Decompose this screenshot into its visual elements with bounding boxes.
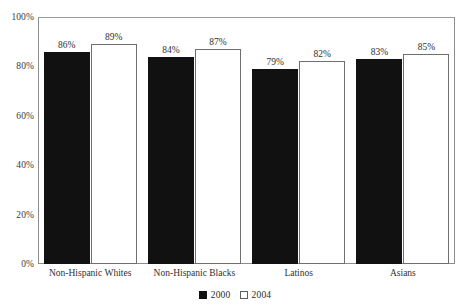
bar-value-label: 79%	[266, 57, 283, 68]
bar-group: 79%82%	[247, 17, 351, 264]
bar-value-label: 84%	[162, 45, 179, 56]
bar-2004-latinos: 82%	[299, 61, 345, 264]
bar-value-label: 85%	[418, 42, 435, 53]
bar-value-label: 83%	[371, 47, 388, 58]
y-axis: 0%20%40%60%80%100%	[0, 0, 34, 308]
y-axis-tick-label: 60%	[0, 111, 34, 121]
bar-value-label: 89%	[105, 32, 122, 43]
legend-swatch-icon	[240, 291, 248, 299]
x-axis-label-latinos: Latinos	[284, 267, 313, 280]
bar-group: 83%85%	[351, 17, 455, 264]
bar-2004-non-hispanic-blacks: 87%	[195, 49, 241, 264]
x-axis-category-labels: Non-Hispanic WhitesNon-Hispanic BlacksLa…	[38, 267, 455, 283]
y-axis-tick-label: 0%	[0, 259, 34, 269]
x-axis-label-asians: Asians	[390, 267, 416, 280]
bar-value-label: 87%	[209, 37, 226, 48]
bar-2000-non-hispanic-whites: 86%	[44, 52, 90, 264]
legend-label: 2000	[211, 289, 231, 301]
legend-label: 2004	[252, 289, 272, 301]
bar-2000-non-hispanic-blacks: 84%	[148, 57, 194, 264]
bar-group: 86%89%	[38, 17, 142, 264]
bar-2000-latinos: 79%	[252, 69, 298, 264]
x-axis-label-non-hispanic-blacks: Non-Hispanic Blacks	[154, 267, 236, 280]
x-axis-label-non-hispanic-whites: Non-Hispanic Whites	[49, 267, 131, 280]
bar-2000-asians: 83%	[356, 59, 402, 264]
y-axis-tick-label: 40%	[0, 160, 34, 170]
y-axis-tick-label: 100%	[0, 12, 34, 22]
bar-value-label: 86%	[58, 40, 75, 51]
bar-value-label: 82%	[313, 49, 330, 60]
y-axis-tick-label: 80%	[0, 61, 34, 71]
bar-2004-non-hispanic-whites: 89%	[91, 44, 137, 264]
legend-item-2004: 2004	[240, 289, 272, 301]
chart-legend: 20002004	[0, 289, 470, 301]
bar-group: 84%87%	[142, 17, 246, 264]
bar-2004-asians: 85%	[403, 54, 449, 264]
legend-item-2000: 2000	[199, 289, 231, 301]
y-axis-tick-label: 20%	[0, 210, 34, 220]
bars-layer: 86%89%84%87%79%82%83%85%	[38, 17, 455, 264]
bar-chart: 0%20%40%60%80%100% 86%89%84%87%79%82%83%…	[0, 0, 470, 308]
legend-swatch-icon	[199, 291, 207, 299]
